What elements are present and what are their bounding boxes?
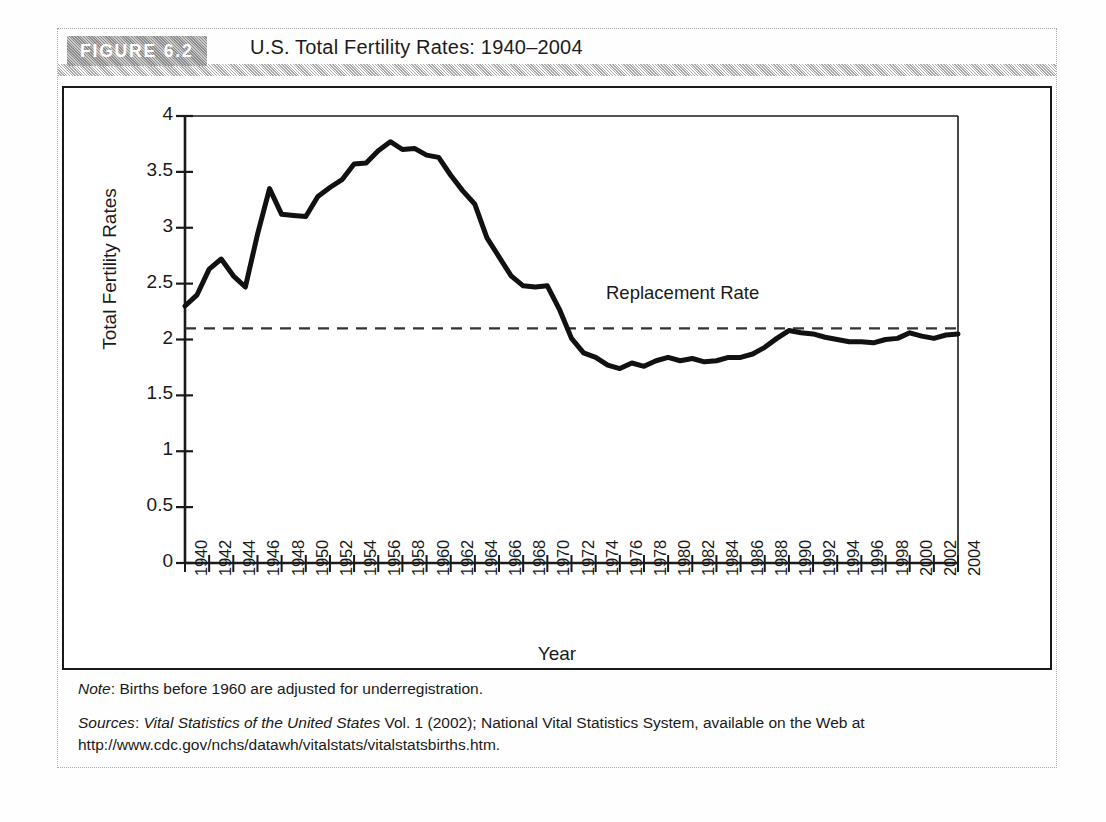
note-line: Note: Births before 1960 are adjusted fo… <box>78 678 1048 699</box>
y-tick-label: 3 <box>129 215 173 237</box>
x-tick-label: 1998 <box>893 540 912 576</box>
sources-italic-title: Vital Statistics of the United States <box>144 714 381 731</box>
sources-sep: : <box>135 714 144 731</box>
note-text: Births before 1960 are adjusted for unde… <box>119 680 483 697</box>
sources-url: http://www.cdc.gov/nchs/datawh/vitalstat… <box>78 736 500 753</box>
y-tick-label: 4 <box>129 103 173 125</box>
x-tick-label: 1944 <box>240 540 259 576</box>
note-prefix: Note <box>78 680 111 697</box>
x-tick-label: 1978 <box>651 540 670 576</box>
y-tick-label: 2 <box>129 327 173 349</box>
x-tick-label: 1940 <box>192 540 211 576</box>
figure-root: FIGURE 6.2 U.S. Total Fertility Rates: 1… <box>0 0 1106 822</box>
replacement-rate-annotation: Replacement Rate <box>606 282 759 304</box>
x-tick-label: 2002 <box>941 540 960 576</box>
sources-line: Sources: Vital Statistics of the United … <box>78 712 1048 755</box>
x-tick-label: 1976 <box>627 540 646 576</box>
x-tick-label: 1974 <box>603 540 622 576</box>
figure-number-badge: FIGURE 6.2 <box>67 36 207 66</box>
x-tick-label: 1962 <box>458 540 477 576</box>
x-tick-label: 1966 <box>506 540 525 576</box>
x-tick-label: 1960 <box>434 540 453 576</box>
x-tick-label: 1982 <box>699 540 718 576</box>
y-tick-label: 3.5 <box>129 159 173 181</box>
y-axis-title: Total Fertility Rates <box>99 139 121 399</box>
x-tick-label: 1986 <box>748 540 767 576</box>
x-tick-label: 1980 <box>675 540 694 576</box>
sources-rest: Vol. 1 (2002); National Vital Statistics… <box>380 714 865 731</box>
x-tick-label: 1958 <box>409 540 428 576</box>
x-tick-label: 1942 <box>216 540 235 576</box>
x-tick-label: 1954 <box>361 540 380 576</box>
x-tick-label: 1992 <box>820 540 839 576</box>
fertility-rate-line-chart <box>62 86 1052 670</box>
x-tick-label: 1964 <box>482 540 501 576</box>
x-tick-label: 2004 <box>965 540 984 576</box>
x-tick-label: 2000 <box>917 540 936 576</box>
x-tick-label: 1946 <box>264 540 283 576</box>
x-tick-label: 1956 <box>385 540 404 576</box>
sources-prefix: Sources <box>78 714 135 731</box>
y-tick-label: 1 <box>129 438 173 460</box>
figure-number-label: FIGURE 6.2 <box>80 40 194 62</box>
x-tick-label: 1988 <box>772 540 791 576</box>
x-tick-label: 1952 <box>337 540 356 576</box>
x-tick-label: 1950 <box>313 540 332 576</box>
x-tick-label: 1970 <box>554 540 573 576</box>
x-tick-label: 1984 <box>723 540 742 576</box>
figure-notes: Note: Births before 1960 are adjusted fo… <box>78 678 1048 755</box>
figure-title: U.S. Total Fertility Rates: 1940–2004 <box>250 36 583 59</box>
x-tick-label: 1948 <box>289 540 308 576</box>
y-tick-label: 1.5 <box>129 382 173 404</box>
x-tick-label: 1968 <box>530 540 549 576</box>
x-axis-title: Year <box>62 643 1052 665</box>
y-tick-label: 0 <box>129 550 173 572</box>
x-tick-label: 1996 <box>868 540 887 576</box>
x-tick-label: 1994 <box>844 540 863 576</box>
x-tick-label: 1990 <box>796 540 815 576</box>
header-gray-band <box>58 64 1056 76</box>
x-tick-label: 1972 <box>579 540 598 576</box>
y-tick-label: 2.5 <box>129 271 173 293</box>
y-tick-label: 0.5 <box>129 494 173 516</box>
